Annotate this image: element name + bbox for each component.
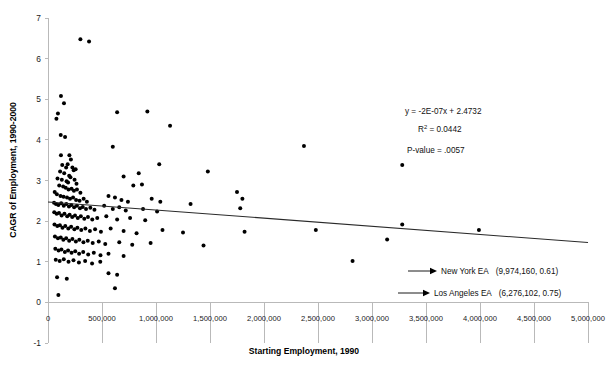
scatter-point (58, 170, 62, 174)
x-tick-label: 500,000 (88, 314, 115, 323)
x-tick-label: 1,000,000 (139, 314, 173, 323)
scatter-point (130, 243, 134, 247)
r-squared-label: R2 = 0.0442 (418, 124, 462, 134)
los-angeles-label: Los Angeles EA(6,276,102, 0.75) (434, 289, 561, 298)
scatter-point (88, 229, 92, 233)
scatter-point (124, 209, 128, 213)
scatter-point (314, 228, 318, 232)
scatter-point (74, 239, 78, 243)
scatter-point (65, 277, 69, 281)
scatter-point (98, 253, 102, 257)
scatter-point (62, 171, 66, 175)
scatter-point (73, 249, 77, 253)
scatter-point (104, 214, 108, 218)
scatter-point (157, 162, 161, 166)
scatter-point (79, 214, 83, 218)
scatter-point (55, 275, 59, 279)
scatter-point (92, 251, 96, 255)
scatter-point (240, 197, 244, 201)
scatter-point (122, 254, 126, 258)
scatter-point (128, 216, 132, 220)
scatter-point (58, 259, 62, 263)
scatter-point (109, 226, 113, 230)
scatter-point (86, 252, 90, 256)
scatter-point (86, 239, 90, 243)
scatter-point (243, 230, 247, 234)
new-york-arrow-head (430, 268, 437, 274)
scatter-point (99, 230, 103, 234)
scatter-point (56, 176, 60, 180)
scatter-point (113, 196, 117, 200)
scatter-point (137, 171, 141, 175)
annotation-los-angeles: Los Angeles EA(6,276,102, 0.75) (398, 289, 561, 298)
scatter-point (78, 37, 82, 41)
scatter-point (122, 229, 126, 233)
scatter-point (90, 261, 94, 265)
regression-equation-label: y = -2E-07x + 2.4732 (405, 107, 482, 116)
scatter-point (106, 271, 110, 275)
x-tick-label: 3,000,000 (355, 314, 389, 323)
x-tick-label: 3,500,000 (409, 314, 443, 323)
scatter-point (351, 259, 355, 263)
scatter-point (106, 252, 110, 256)
scatter-point (160, 228, 164, 232)
scatter-point (78, 199, 82, 203)
scatter-point (77, 252, 81, 256)
scatter-point (91, 241, 95, 245)
scatter-point (158, 200, 162, 204)
scatter-point (56, 293, 60, 297)
scatter-point (62, 195, 66, 199)
scatter-point (62, 101, 66, 105)
y-axis-title: CAGR of Employment, 1990-2000 (8, 102, 18, 238)
scatter-point (59, 248, 63, 252)
scatter-point (59, 153, 63, 157)
scatter-point (84, 207, 88, 211)
x-tick-label: 2,500,000 (301, 314, 335, 323)
y-tick-label: -1 (34, 338, 42, 348)
scatter-chart-container: -101234567 0500,0001,000,0001,500,0002,0… (0, 0, 609, 376)
scatter-point (149, 241, 153, 245)
scatter-point (54, 258, 58, 262)
trendline-group (48, 202, 588, 243)
scatter-point (106, 194, 110, 198)
annotation-new-york: New York EA(9,974,160, 0.61) (408, 267, 558, 276)
scatter-point (69, 225, 73, 229)
scatter-point (126, 200, 130, 204)
x-tick-label: 0 (46, 314, 50, 323)
scatter-point (400, 163, 404, 167)
x-tick-label: 4,000,000 (463, 314, 497, 323)
scatter-point (117, 240, 121, 244)
los-angeles-arrow-head (423, 290, 430, 296)
scatter-point (87, 40, 91, 44)
scatter-point (181, 231, 185, 235)
scatter-point (63, 135, 67, 139)
scatter-point (477, 228, 481, 232)
scatter-point (81, 250, 85, 254)
scatter-point (111, 207, 115, 211)
scatter-point (302, 144, 306, 148)
scatter-point (86, 215, 90, 219)
scatter-point (60, 163, 64, 167)
scatter-point (56, 111, 60, 115)
scatter-point (74, 167, 78, 171)
data-points-group (52, 37, 481, 297)
scatter-point (73, 178, 77, 182)
scatter-point (92, 208, 96, 212)
scatter-point (400, 222, 404, 226)
scatter-point (83, 226, 87, 230)
scatter-point (103, 242, 107, 246)
scatter-point (189, 202, 193, 206)
scatter-point (93, 227, 97, 231)
scatter-point (66, 248, 70, 252)
scatter-point (206, 170, 210, 174)
scatter-point (60, 178, 64, 182)
scatter-point (111, 145, 115, 149)
new-york-label: New York EA(9,974,160, 0.61) (441, 267, 558, 276)
scatter-point (77, 238, 81, 242)
scatter-point (59, 94, 63, 98)
scatter-point (54, 117, 58, 121)
scatter-point (97, 239, 101, 243)
scatter-point (59, 133, 63, 137)
scatter-point (90, 218, 94, 222)
scatter-point (95, 216, 99, 220)
